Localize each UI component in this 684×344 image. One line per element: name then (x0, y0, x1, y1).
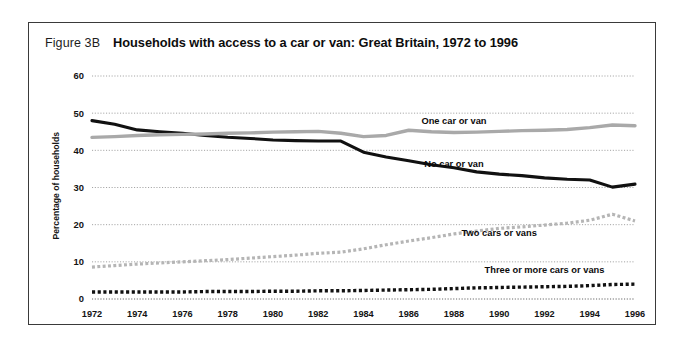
y-axis-tick-label: 10 (74, 256, 84, 267)
chart-plot-area: 0102030405060Percentage of households197… (29, 23, 655, 324)
y-axis-title: Percentage of households (51, 132, 61, 240)
y-axis-tick-label: 20 (74, 219, 84, 230)
x-axis-tick-label: 1980 (263, 309, 283, 319)
x-axis-tick-label: 1986 (399, 309, 419, 319)
x-axis-tick-label: 1976 (172, 309, 192, 319)
y-axis-tick-label: 30 (74, 182, 84, 193)
y-axis-tick-label: 60 (74, 70, 84, 81)
x-axis-tick-label: 1996 (625, 309, 645, 319)
series-label-0: One car or van (421, 116, 486, 126)
y-axis-tick-label: 40 (74, 145, 84, 156)
figure-panel: Figure 3B Households with access to a ca… (28, 22, 656, 325)
x-axis-tick-label: 1988 (444, 309, 464, 319)
x-axis-tick-label: 1990 (489, 309, 509, 319)
x-axis-tick-label: 1972 (82, 309, 102, 319)
x-axis-tick-label: 1982 (308, 309, 328, 319)
series-label-1: No car or van (424, 159, 484, 169)
x-axis-tick-label: 1974 (127, 309, 148, 319)
x-axis-tick-label: 1984 (353, 309, 374, 319)
series-label-2: Two cars or vans (462, 228, 537, 238)
y-axis-tick-label: 50 (74, 108, 84, 119)
x-axis-tick-label: 1978 (218, 309, 238, 319)
line-chart: 0102030405060Percentage of households197… (29, 23, 657, 326)
series-label-3: Three or more cars or vans (485, 265, 605, 275)
x-axis-tick-label: 1994 (580, 309, 601, 319)
series-line-3 (92, 284, 635, 292)
x-axis-tick-label: 1992 (534, 309, 554, 319)
y-axis-tick-label: 0 (79, 293, 84, 304)
series-line-2 (92, 214, 635, 267)
